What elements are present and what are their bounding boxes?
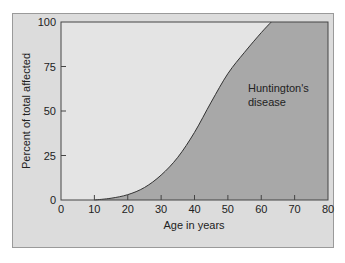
x-tick-label: 0 (58, 203, 64, 215)
chart-svg: 01020304050607080 0255075100 Age in year… (0, 0, 345, 263)
x-tick-label: 40 (188, 203, 200, 215)
y-tick-label: 25 (44, 150, 56, 162)
x-tick-label: 10 (88, 203, 100, 215)
y-tick-label: 100 (38, 16, 56, 28)
y-axis-title: Percent of total affected (20, 53, 32, 169)
y-tick-label: 75 (44, 61, 56, 73)
x-tick-label: 60 (255, 203, 267, 215)
y-tick-label: 0 (50, 194, 56, 206)
annotation-line1: Huntington's (248, 82, 309, 94)
annotation-line2: disease (248, 96, 286, 108)
x-tick-label: 80 (322, 203, 334, 215)
y-tick-label: 50 (44, 105, 56, 117)
x-tick-label: 30 (155, 203, 167, 215)
x-axis-title: Age in years (163, 219, 225, 231)
x-tick-label: 50 (222, 203, 234, 215)
x-tick-label: 70 (289, 203, 301, 215)
x-tick-label: 20 (122, 203, 134, 215)
